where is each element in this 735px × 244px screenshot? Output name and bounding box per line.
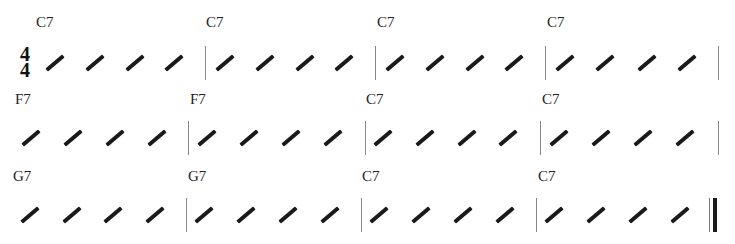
beat-slash — [465, 54, 484, 71]
beat-slash — [63, 129, 82, 146]
chord-symbol: F7 — [15, 91, 31, 108]
beat-slash — [197, 129, 216, 146]
barline — [188, 121, 189, 155]
beat-slash — [295, 54, 314, 71]
beat-slash — [633, 129, 652, 146]
beat-slash — [125, 54, 144, 71]
time-signature-denominator: 4 — [18, 62, 32, 78]
chord-symbol: C7 — [547, 14, 565, 31]
beat-slash — [549, 129, 568, 146]
beat-slash — [453, 206, 472, 223]
chord-symbol: C7 — [36, 14, 54, 31]
beat-slash — [544, 206, 563, 223]
beat-slash — [236, 206, 255, 223]
chord-symbol: F7 — [190, 91, 206, 108]
beat-slash — [85, 54, 104, 71]
beat-slash — [278, 206, 297, 223]
barline — [375, 46, 376, 80]
final-barline-thin — [709, 198, 710, 232]
beat-slash — [586, 206, 605, 223]
barline — [205, 46, 206, 80]
time-signature: 4 4 — [18, 46, 32, 78]
beat-slash — [628, 206, 647, 223]
beat-slash — [239, 129, 258, 146]
beat-slash — [495, 206, 514, 223]
beat-slash — [62, 206, 81, 223]
beat-slash — [677, 54, 696, 71]
beat-slash — [425, 54, 444, 71]
chord-symbol: C7 — [366, 91, 384, 108]
beat-slash — [20, 206, 39, 223]
chord-symbol: C7 — [362, 168, 380, 185]
barline — [536, 198, 537, 232]
barline — [545, 46, 546, 80]
beat-slash — [194, 206, 213, 223]
beat-slash — [595, 54, 614, 71]
beat-slash — [323, 129, 342, 146]
beat-slash — [670, 206, 689, 223]
final-barline-thick — [713, 198, 717, 232]
beat-slash — [145, 206, 164, 223]
beat-slash — [415, 129, 434, 146]
beat-slash — [281, 129, 300, 146]
beat-slash — [320, 206, 339, 223]
barline — [540, 121, 541, 155]
beat-slash — [591, 129, 610, 146]
beat-slash — [45, 54, 64, 71]
barline — [186, 198, 187, 232]
beat-slash — [555, 54, 574, 71]
beat-slash — [103, 206, 122, 223]
beat-slash — [385, 54, 404, 71]
beat-slash — [21, 129, 40, 146]
chord-symbol: G7 — [188, 168, 206, 185]
beat-slash — [255, 54, 274, 71]
chord-symbol: C7 — [542, 91, 560, 108]
barline — [718, 121, 719, 155]
beat-slash — [105, 129, 124, 146]
barline — [365, 121, 366, 155]
chord-symbol: G7 — [13, 168, 31, 185]
chord-symbol: C7 — [377, 14, 395, 31]
beat-slash — [504, 54, 523, 71]
beat-slash — [147, 129, 166, 146]
beat-slash — [373, 129, 392, 146]
beat-slash — [457, 129, 476, 146]
beat-slash — [334, 54, 353, 71]
chord-symbol: C7 — [538, 168, 556, 185]
beat-slash — [164, 54, 183, 71]
barline — [718, 46, 719, 80]
beat-slash — [675, 129, 694, 146]
beat-slash — [498, 129, 517, 146]
barline — [361, 198, 362, 232]
beat-slash — [411, 206, 430, 223]
chord-symbol: C7 — [206, 14, 224, 31]
beat-slash — [637, 54, 656, 71]
beat-slash — [369, 206, 388, 223]
beat-slash — [215, 54, 234, 71]
